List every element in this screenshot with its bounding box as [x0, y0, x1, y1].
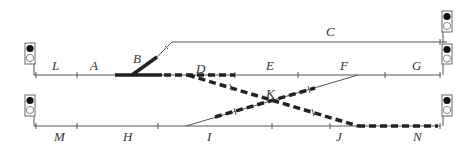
signal-off-lamp-icon [443, 22, 450, 29]
label-g: G [412, 58, 422, 73]
label-i: I [206, 129, 212, 144]
active-route [115, 57, 438, 126]
label-e: E [265, 58, 274, 73]
signal-lower-right [442, 95, 452, 126]
label-b: B [133, 51, 141, 66]
label-l: L [51, 58, 59, 73]
signal-off-lamp-icon [443, 55, 450, 62]
signal-siding-right [442, 11, 452, 43]
label-j: J [336, 129, 343, 144]
label-h: H [122, 129, 133, 144]
label-f: F [339, 58, 349, 73]
signal-upper-right [442, 44, 452, 75]
signal-upper-left [25, 43, 35, 75]
label-d: D [195, 61, 206, 76]
track-diagram: L A B C D E F G K M H I J N [0, 0, 475, 150]
signal-red-lamp-icon [443, 13, 450, 20]
label-m: M [53, 129, 66, 144]
label-c: C [326, 24, 335, 39]
signal-red-lamp-icon [26, 97, 33, 104]
siding-track-c [157, 39, 447, 57]
signal-red-lamp-icon [443, 97, 450, 104]
signal-off-lamp-icon [443, 106, 450, 113]
signal-off-lamp-icon [26, 106, 33, 113]
lower-main-track [34, 123, 441, 129]
signal-red-lamp-icon [443, 46, 450, 53]
signal-lower-left [25, 95, 35, 126]
label-k: K [265, 86, 276, 101]
signal-off-lamp-icon [26, 54, 33, 61]
label-a: A [89, 58, 98, 73]
signal-red-lamp-icon [26, 45, 33, 52]
label-n: N [412, 129, 423, 144]
